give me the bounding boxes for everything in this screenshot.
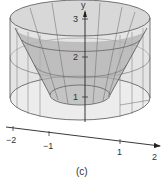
figure-caption: (c) (76, 166, 88, 177)
y-tick-1: 1 (73, 92, 78, 102)
y-tick-2: 2 (73, 52, 78, 62)
x-axis: −2 −1 1 2 (6, 126, 161, 162)
x-tick-1: 1 (117, 147, 122, 157)
y-axis-label: y (81, 0, 86, 10)
solid-of-revolution-figure: y 1 2 3 −2 −1 1 2 (c) (0, 0, 163, 178)
x-tick-neg1: −1 (43, 141, 53, 151)
x-tick-2: 2 (152, 152, 157, 162)
y-tick-3: 3 (73, 14, 78, 24)
x-tick-neg2: −2 (6, 135, 16, 145)
